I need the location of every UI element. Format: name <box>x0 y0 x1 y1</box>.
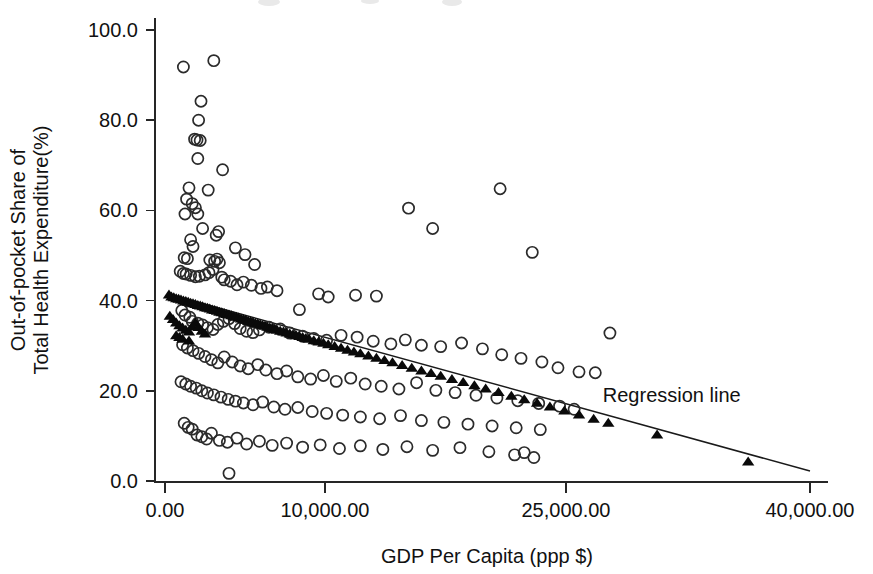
data-point-circle <box>470 390 481 401</box>
data-point-circle <box>279 404 290 415</box>
data-point-circle <box>604 327 615 338</box>
y-axis-title-line1: Out-of-pocket Share of <box>7 148 29 351</box>
data-point-circle <box>374 413 385 424</box>
data-point-circle <box>552 362 563 373</box>
data-point-circle <box>511 422 522 433</box>
data-point-circle <box>217 164 228 175</box>
data-point-circle <box>185 234 196 245</box>
data-point-circle <box>395 410 406 421</box>
regression-line-annotation: Regression line <box>603 384 741 406</box>
figure-container: 0.020.040.060.080.0100.0 0.0010,000.0025… <box>0 0 873 574</box>
data-point-circle <box>427 223 438 234</box>
data-point-circle <box>305 373 316 384</box>
data-point-circle <box>454 442 465 453</box>
x-axis-ticks: 0.0010,000.0025,000.0040,000.00 <box>146 482 855 521</box>
y-tick-label: 20.0 <box>99 380 138 402</box>
y-tick-label: 0.0 <box>110 470 138 492</box>
data-point-circle <box>297 442 308 453</box>
data-point-circle <box>281 438 292 449</box>
data-point-triangle <box>492 387 504 396</box>
data-point-circle <box>393 383 404 394</box>
data-point-circle <box>403 203 414 214</box>
data-point-circle <box>334 443 345 454</box>
data-point-circle <box>416 415 427 426</box>
data-point-circle <box>430 385 441 396</box>
x-tick-label: 40,000.00 <box>766 499 855 521</box>
data-point-circle <box>321 408 332 419</box>
data-point-circle <box>483 446 494 457</box>
data-point-circle <box>331 376 342 387</box>
data-point-circle <box>307 406 318 417</box>
data-point-circle <box>400 334 411 345</box>
observed-points-series <box>175 55 616 479</box>
data-point-circle <box>355 411 366 422</box>
data-point-circle <box>350 290 361 301</box>
data-point-circle <box>355 440 366 451</box>
data-point-circle <box>376 381 387 392</box>
data-point-circle <box>462 419 473 430</box>
y-tick-label: 80.0 <box>99 109 138 131</box>
data-point-circle <box>427 445 438 456</box>
y-axis-title-line2: Total Health Expenditure(%) <box>30 125 52 374</box>
data-point-circle <box>252 359 263 370</box>
data-point-triangle <box>415 365 427 374</box>
y-axis-ticks: 0.020.040.060.080.0100.0 <box>88 19 155 492</box>
data-point-triangle <box>479 383 491 392</box>
data-point-circle <box>401 441 412 452</box>
data-point-circle <box>416 340 427 351</box>
x-axis-title: GDP Per Capita (ppp $) <box>381 545 593 567</box>
data-point-circle <box>213 226 224 237</box>
data-point-triangle <box>457 377 469 386</box>
data-point-circle <box>371 290 382 301</box>
data-point-circle <box>385 338 396 349</box>
data-point-circle <box>438 417 449 428</box>
y-axis-title: Out-of-pocket Share of Total Health Expe… <box>7 125 52 374</box>
data-point-triangle <box>602 418 614 427</box>
data-point-triangle <box>425 368 437 377</box>
data-point-circle <box>536 356 547 367</box>
data-point-circle <box>352 332 363 343</box>
data-point-circle <box>496 349 507 360</box>
data-point-circle <box>515 353 526 364</box>
data-point-circle <box>197 223 208 234</box>
data-point-circle <box>292 371 303 382</box>
data-point-circle <box>179 208 190 219</box>
data-point-circle <box>368 336 379 347</box>
data-point-circle <box>411 377 422 388</box>
data-point-circle <box>477 343 488 354</box>
data-point-circle <box>292 402 303 413</box>
data-point-triangle <box>396 360 408 369</box>
data-point-circle <box>230 396 241 407</box>
data-point-circle <box>193 115 204 126</box>
data-point-circle <box>239 249 250 260</box>
predicted-points-series <box>163 290 755 466</box>
data-point-circle <box>337 410 348 421</box>
x-tick-label: 0.00 <box>146 499 185 521</box>
data-point-circle <box>268 401 279 412</box>
data-point-circle <box>215 392 226 403</box>
data-point-circle <box>318 370 329 381</box>
data-point-circle <box>192 153 203 164</box>
data-point-circle <box>178 61 189 72</box>
data-point-circle <box>486 420 497 431</box>
y-tick-label: 100.0 <box>88 19 138 41</box>
data-point-circle <box>241 438 252 449</box>
data-point-circle <box>573 366 584 377</box>
data-point-circle <box>495 183 506 194</box>
data-point-circle <box>260 364 271 375</box>
data-point-circle <box>335 330 346 341</box>
data-point-circle <box>527 247 538 258</box>
data-point-circle <box>203 185 214 196</box>
data-point-circle <box>294 304 305 315</box>
data-point-triangle <box>742 456 754 465</box>
data-point-circle <box>187 241 198 252</box>
data-point-circle <box>450 387 461 398</box>
x-tick-label: 10,000.00 <box>281 499 370 521</box>
data-point-circle <box>183 182 194 193</box>
data-point-circle <box>323 291 334 302</box>
data-point-circle <box>528 452 539 463</box>
data-point-circle <box>195 96 206 107</box>
data-point-circle <box>208 55 219 66</box>
data-point-circle <box>360 378 371 389</box>
data-point-circle <box>315 439 326 450</box>
